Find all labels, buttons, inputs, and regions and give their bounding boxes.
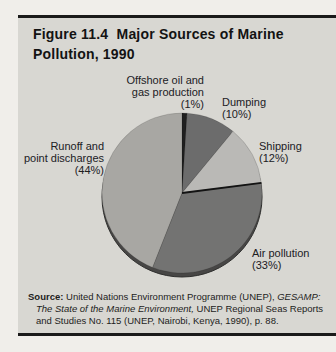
- label-offshore-oil-gas: Offshore oil and gas production (1%): [96, 74, 204, 110]
- figure-title-line1: Figure 11.4 Major Sources of Marine: [33, 24, 323, 44]
- label-shipping: Shipping (12%): [259, 140, 329, 164]
- figure-title-line2: Pollution, 1990: [33, 44, 323, 64]
- label-air-pollution: Air pollution (33%): [252, 247, 332, 271]
- figure-page: Figure 11.4 Major Sources of Marine Poll…: [0, 0, 336, 352]
- label-line: gas production: [96, 86, 204, 98]
- label-value: (1%): [96, 98, 204, 110]
- label-value: (10%): [222, 108, 292, 120]
- label-line: Offshore oil and: [96, 74, 204, 86]
- source-segment: United Nations Environment Programme (UN…: [63, 291, 277, 302]
- label-value: (12%): [259, 152, 329, 164]
- source-citation: Source: United Nations Environment Progr…: [28, 291, 336, 327]
- label-line: Dumping: [222, 96, 292, 108]
- label-value: (33%): [252, 259, 332, 271]
- label-line: Shipping: [259, 140, 329, 152]
- source-segment: Source:: [28, 291, 63, 302]
- label-runoff-point-discharges: Runoff and point discharges (44%): [16, 140, 104, 176]
- label-line: Air pollution: [252, 247, 332, 259]
- label-line: point discharges: [16, 152, 104, 164]
- label-line: Runoff and: [16, 140, 104, 152]
- label-dumping: Dumping (10%): [222, 96, 292, 120]
- figure-title: Figure 11.4 Major Sources of Marine Poll…: [33, 24, 323, 64]
- label-value: (44%): [16, 164, 104, 176]
